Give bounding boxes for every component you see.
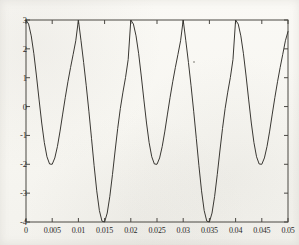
x-tick-label: 0.03 (177, 226, 190, 235)
y-tick-label: -4 (20, 217, 27, 227)
y-axis-ticks (26, 20, 288, 222)
y-tick-label: 3 (23, 15, 27, 25)
x-axis-ticks (26, 20, 288, 222)
y-tick-label: -3 (20, 188, 27, 198)
x-tick-label: 0.005 (44, 226, 61, 235)
y-tick-label: 1 (23, 73, 27, 83)
y-tick-label: 0 (23, 102, 27, 112)
plot-canvas (0, 0, 299, 245)
x-tick-label: 0.02 (124, 226, 137, 235)
data-series-line (26, 20, 288, 222)
x-tick-label: 0.015 (96, 226, 113, 235)
y-tick-label: -1 (20, 130, 27, 140)
x-tick-label: 0.025 (148, 226, 165, 235)
y-tick-label: -2 (20, 159, 27, 169)
x-tick-label: 0.035 (201, 226, 218, 235)
x-tick-label: 0.045 (253, 226, 270, 235)
scan-artifact-speck (193, 61, 195, 63)
plot-frame (26, 20, 288, 222)
chart-figure: 00.0050.010.0150.020.0250.030.0350.040.0… (0, 0, 299, 245)
x-tick-label: 0.05 (281, 226, 294, 235)
y-tick-label: 2 (23, 44, 27, 54)
x-tick-label: 0.04 (229, 226, 242, 235)
x-tick-label: 0 (24, 226, 28, 235)
x-tick-label: 0.01 (72, 226, 85, 235)
